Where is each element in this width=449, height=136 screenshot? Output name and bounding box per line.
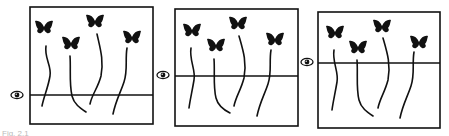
butterfly-icon bbox=[35, 21, 53, 33]
butterfly-icon bbox=[373, 20, 391, 32]
butterfly-icon bbox=[266, 33, 284, 45]
butterfly-icon bbox=[123, 31, 141, 43]
butterfly-string bbox=[42, 46, 50, 106]
panel-1 bbox=[11, 7, 153, 124]
butterfly-eye-level-diagram bbox=[0, 0, 449, 136]
butterfly-string bbox=[400, 52, 414, 118]
panel-3 bbox=[301, 12, 440, 128]
butterfly-icon bbox=[207, 39, 225, 51]
butterfly-icon bbox=[410, 36, 428, 48]
butterfly-icon bbox=[349, 41, 367, 53]
butterfly-icon bbox=[86, 15, 104, 27]
butterfly-string bbox=[378, 38, 389, 108]
eye-icon bbox=[301, 58, 313, 65]
butterfly-string bbox=[214, 59, 230, 113]
eye-icon bbox=[11, 91, 23, 98]
butterfly-icon bbox=[183, 24, 201, 36]
eye-icon bbox=[157, 71, 169, 78]
butterfly-string bbox=[189, 48, 194, 108]
butterfly-string bbox=[113, 48, 127, 114]
butterfly-string bbox=[70, 56, 86, 112]
butterfly-string bbox=[357, 60, 373, 116]
butterfly-string bbox=[257, 50, 271, 116]
butterfly-icon bbox=[62, 37, 80, 49]
butterfly-icon bbox=[229, 17, 247, 29]
butterfly-string bbox=[332, 50, 337, 110]
panel-2 bbox=[157, 9, 298, 126]
figure-caption: Fig. 2.1 bbox=[2, 129, 29, 136]
butterfly-string bbox=[234, 36, 245, 106]
butterfly-string bbox=[90, 34, 102, 104]
butterfly-icon bbox=[326, 26, 344, 38]
